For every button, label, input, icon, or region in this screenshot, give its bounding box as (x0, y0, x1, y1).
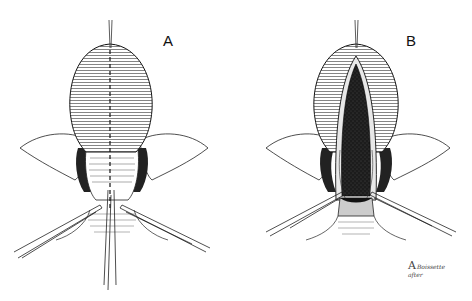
signature-name: Boissette (417, 263, 445, 270)
panel-a: A (0, 0, 236, 301)
panel-label-b: B (406, 32, 416, 49)
forceps (14, 190, 210, 290)
panel-b-illustration (236, 0, 472, 301)
artist-signature: ABoissette after (408, 262, 445, 279)
panel-b: B (236, 0, 472, 301)
panel-a-illustration (0, 0, 236, 301)
panel-label-a: A (163, 32, 173, 49)
signature-subtitle: after (408, 271, 445, 279)
